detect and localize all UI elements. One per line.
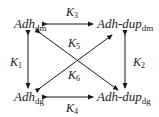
label-k1-sub: 1 xyxy=(18,61,22,70)
label-k5-sub: 5 xyxy=(76,42,80,51)
label-k3-sub: 3 xyxy=(74,11,78,20)
label-k4-base: K xyxy=(66,101,74,115)
label-k4: K4 xyxy=(66,102,78,117)
node-adh-dup-dm-sub: dm xyxy=(142,23,154,33)
node-adh-dup-dg-base: Adh-dup xyxy=(97,89,142,104)
node-adh-dup-dm: Adh-dupdm xyxy=(97,17,153,35)
label-k2-sub: 2 xyxy=(141,61,145,70)
label-k6: K6 xyxy=(68,69,80,85)
node-adh-dup-dg: Adh-dupdg xyxy=(97,90,151,108)
label-k4-sub: 4 xyxy=(74,107,78,116)
label-k6-sub: 6 xyxy=(76,74,80,83)
node-adh-dg-base: Adh xyxy=(14,89,35,104)
label-k2-base: K xyxy=(133,55,141,69)
node-adh-dm: Adhdm xyxy=(14,17,46,35)
node-adh-dg: Adhdg xyxy=(14,90,44,108)
node-adh-dg-sub: dg xyxy=(35,96,44,106)
label-k3-base: K xyxy=(66,5,74,19)
node-adh-dm-sub: dm xyxy=(35,23,47,33)
node-adh-dm-base: Adh xyxy=(14,16,35,31)
transition-diagram: Adhdm Adh-dupdm Adhdg Adh-dupdg K3 K5 K1… xyxy=(0,0,159,117)
label-k5-base: K xyxy=(68,36,76,50)
label-k1: K1 xyxy=(10,56,22,72)
node-adh-dup-dm-base: Adh-dup xyxy=(97,16,142,31)
label-k2: K2 xyxy=(133,56,145,72)
label-k1-base: K xyxy=(10,55,18,69)
node-adh-dup-dg-sub: dg xyxy=(142,96,151,106)
label-k3: K3 xyxy=(66,6,78,22)
label-k6-base: K xyxy=(68,68,76,82)
label-k5: K5 xyxy=(68,37,80,53)
